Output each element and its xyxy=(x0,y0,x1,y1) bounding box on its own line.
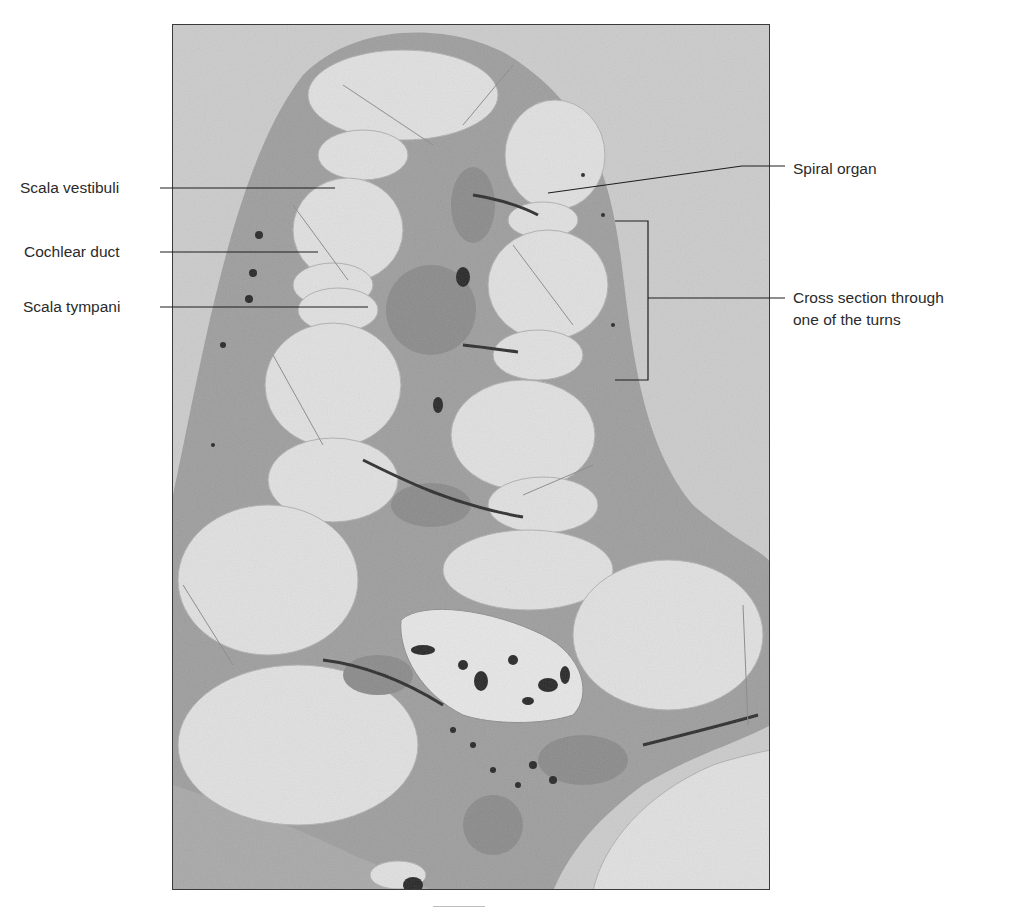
label-cross-section-line1: Cross section through xyxy=(793,287,944,308)
cochlea-micrograph xyxy=(172,24,770,890)
label-cochlear-duct: Cochlear duct xyxy=(24,242,120,262)
label-cross-section-line2: one of the turns xyxy=(793,309,901,330)
label-spiral-organ: Spiral organ xyxy=(793,158,877,179)
page-edge-mark xyxy=(433,906,485,912)
micrograph-drawing xyxy=(173,25,770,890)
label-scala-tympani: Scala tympani xyxy=(23,297,120,317)
label-scala-vestibuli: Scala vestibuli xyxy=(20,178,119,198)
figure: Scala vestibuli Cochlear duct Scala tymp… xyxy=(0,0,1016,912)
